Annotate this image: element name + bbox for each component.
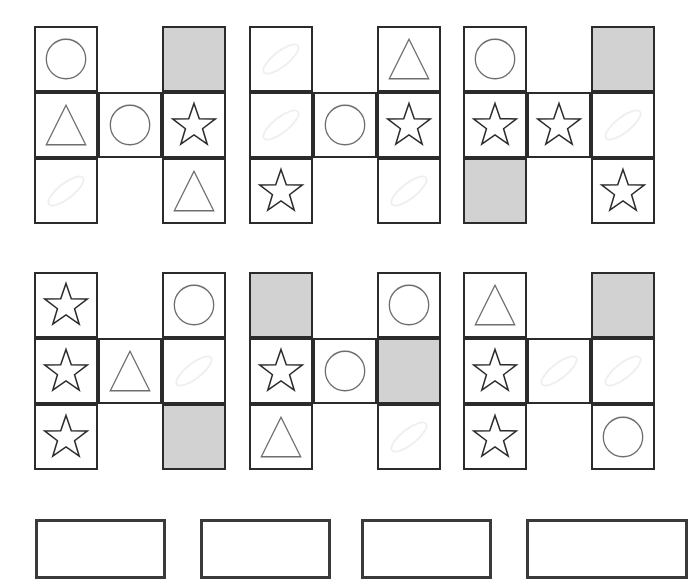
faint-ellipse-icon [529,340,589,402]
cell-r1-c1-faint-ellipse [249,26,313,92]
cell-r3-c1-shaded-square [463,158,527,224]
star-icon [529,94,589,156]
cell-r3-c1-faint-ellipse [34,158,98,224]
cell-r3-c1-triangle [249,404,313,470]
cell-r1-c1-triangle [463,272,527,338]
star-icon [465,406,525,468]
circle-icon [465,28,525,90]
cell-r2-c1-star [34,338,98,404]
faint-ellipse-icon [379,406,439,468]
matrix-puzzle-5 [249,272,441,470]
cell-r3-c3-shaded-square [162,404,226,470]
star-icon [36,274,96,336]
cell-r2-c2-circle [98,92,162,158]
cell-r1-c1-circle [463,26,527,92]
cell-r1-c2-blank [98,272,162,338]
cell-r1-c1-circle [34,26,98,92]
cell-r2-c2-faint-ellipse [527,338,591,404]
triangle-icon [100,340,160,402]
cell-r3-c3-circle [591,404,655,470]
star-icon [465,340,525,402]
star-icon [164,94,224,156]
cell-r2-c3-star [162,92,226,158]
triangle-icon [251,406,311,468]
circle-icon [164,274,224,336]
answer-option-2[interactable] [200,519,331,579]
cell-r2-c2-circle [313,338,377,404]
cell-r1-c2-blank [98,26,162,92]
triangle-icon [164,160,224,222]
star-icon [379,94,439,156]
matrix-puzzle-4 [34,272,226,470]
faint-ellipse-icon [36,160,96,222]
cell-r3-c3-triangle [162,158,226,224]
circle-icon [379,274,439,336]
circle-icon [100,94,160,156]
star-icon [251,340,311,402]
cell-r2-c3-faint-ellipse [591,338,655,404]
cell-r3-c2-blank [527,158,591,224]
cell-r1-c2-blank [313,272,377,338]
cell-r3-c2-blank [313,158,377,224]
cell-r2-c3-faint-ellipse [591,92,655,158]
cell-r2-c1-star [249,338,313,404]
cell-r1-c3-triangle [377,26,441,92]
star-icon [465,94,525,156]
cell-r3-c2-blank [98,158,162,224]
cell-r1-c2-blank [527,26,591,92]
answer-option-3[interactable] [361,519,492,579]
cell-r3-c1-star [249,158,313,224]
cell-r2-c2-triangle [98,338,162,404]
cell-r1-c3-circle [377,272,441,338]
matrix-puzzle-6 [463,272,655,470]
cell-r1-c3-circle [162,272,226,338]
cell-r3-c2-blank [98,404,162,470]
cell-r1-c1-star [34,272,98,338]
faint-ellipse-icon [593,94,653,156]
cell-r2-c3-star [377,92,441,158]
cell-r3-c3-star [591,158,655,224]
faint-ellipse-icon [593,340,653,402]
faint-ellipse-icon [164,340,224,402]
cell-r2-c3-shaded-square [377,338,441,404]
star-icon [251,160,311,222]
cell-r2-c1-triangle [34,92,98,158]
circle-icon [36,28,96,90]
cell-r1-c3-shaded-square [591,26,655,92]
triangle-icon [36,94,96,156]
cell-r2-c1-star [463,338,527,404]
faint-ellipse-icon [379,160,439,222]
matrix-puzzle-1 [34,26,226,224]
cell-r1-c2-blank [527,272,591,338]
cell-r1-c3-shaded-square [162,26,226,92]
cell-r3-c1-star [463,404,527,470]
faint-ellipse-icon [251,28,311,90]
cell-r3-c3-faint-ellipse [377,158,441,224]
star-icon [36,340,96,402]
triangle-icon [465,274,525,336]
cell-r3-c3-faint-ellipse [377,404,441,470]
answer-option-4[interactable] [526,519,688,579]
cell-r1-c1-shaded-square [249,272,313,338]
cell-r3-c1-star [34,404,98,470]
cell-r3-c2-blank [527,404,591,470]
faint-ellipse-icon [251,94,311,156]
cell-r2-c3-faint-ellipse [162,338,226,404]
circle-icon [315,94,375,156]
star-icon [36,406,96,468]
answer-option-1[interactable] [35,519,166,579]
cell-r2-c2-star [527,92,591,158]
cell-r1-c3-shaded-square [591,272,655,338]
circle-icon [593,406,653,468]
matrix-puzzle-2 [249,26,441,224]
matrix-puzzle-3 [463,26,655,224]
cell-r1-c2-blank [313,26,377,92]
circle-icon [315,340,375,402]
cell-r2-c1-faint-ellipse [249,92,313,158]
cell-r2-c1-star [463,92,527,158]
star-icon [593,160,653,222]
cell-r3-c2-blank [313,404,377,470]
triangle-icon [379,28,439,90]
cell-r2-c2-circle [313,92,377,158]
